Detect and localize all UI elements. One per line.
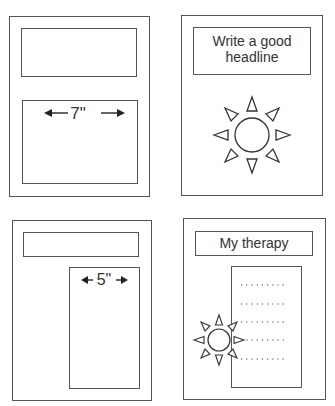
panel-3-headline-box (23, 232, 139, 257)
panel-4-dotted-lines (240, 280, 290, 365)
panel-2-sun-icon (212, 95, 292, 175)
panel-4-sun-icon (194, 315, 244, 365)
panel-1-right-arrow-icon (101, 108, 125, 118)
panel-4-headline-text: My therapy (195, 235, 313, 251)
panel-3-measure-label: 5" (94, 271, 114, 289)
panel-3-left-arrow-icon (81, 275, 93, 285)
panel-1-headline-box (21, 28, 137, 77)
panel-2-headline-text: Write a good headline (200, 33, 304, 65)
panel-1-measure-label: 7" (66, 104, 90, 124)
panel-1-left-arrow-icon (44, 108, 68, 118)
panel-3-right-arrow-icon (116, 275, 128, 285)
